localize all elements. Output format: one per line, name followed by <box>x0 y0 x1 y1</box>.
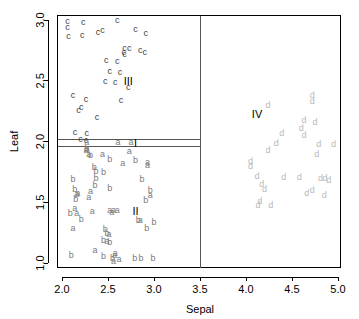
point-d-14: d <box>248 161 253 171</box>
point-a-6: a <box>127 146 132 156</box>
point-b-20: b <box>144 223 149 233</box>
point-c-16: c <box>115 56 120 66</box>
point-b-7: b <box>71 174 76 184</box>
point-b-29: b <box>139 253 144 263</box>
x-axis-title: Sepal <box>186 303 214 315</box>
point-c-17: c <box>122 49 127 59</box>
point-c-23: c <box>71 90 76 100</box>
point-a-27: a <box>93 245 98 255</box>
point-a-21: a <box>109 207 114 217</box>
point-a-24: a <box>71 223 76 233</box>
point-b-1: b <box>88 150 93 160</box>
y-tick-label-1: 1.5 <box>34 195 46 210</box>
x-tick-label-3: 3.5 <box>192 283 207 295</box>
point-b-12: b <box>93 180 98 190</box>
y-tick-label-3: 2.5 <box>34 73 46 88</box>
point-b-16: b <box>68 208 73 218</box>
point-b-6: b <box>101 167 106 177</box>
point-b-24: b <box>107 237 112 247</box>
point-c-11: c <box>127 43 132 53</box>
point-d-10: d <box>331 139 336 149</box>
point-b-18: b <box>136 215 141 225</box>
point-a-30: a <box>117 254 122 264</box>
x-tick-label-0: 2.0 <box>54 283 69 295</box>
plot-frame <box>58 16 341 268</box>
point-a-5: a <box>100 149 105 159</box>
point-b-30: b <box>151 253 156 263</box>
region-label-iv: IV <box>252 108 263 120</box>
point-d-1: d <box>266 100 271 110</box>
point-c-8: c <box>96 27 101 37</box>
point-c-27: c <box>76 105 81 115</box>
point-d-12: d <box>314 149 319 159</box>
point-c-9: c <box>143 28 148 38</box>
point-d-9: d <box>316 139 321 149</box>
point-a-10: a <box>145 160 150 170</box>
point-b-25: b <box>69 250 74 260</box>
point-b-2: b <box>107 154 112 164</box>
point-c-7: c <box>80 30 85 40</box>
point-b-15: b <box>143 195 148 205</box>
axes: 2.02.53.03.54.04.55.01.01.52.02.53.0Sepa… <box>8 12 346 314</box>
point-b-10: b <box>72 184 77 194</box>
point-c-24: c <box>84 94 89 104</box>
point-c-31: c <box>78 134 83 144</box>
point-c-15: c <box>104 55 109 65</box>
x-tick-label-2: 3.0 <box>146 283 161 295</box>
series-c: ccccccccccccccccccccccccccccccccc <box>65 15 148 145</box>
point-d-25: d <box>322 190 327 200</box>
point-c-19: c <box>118 67 123 77</box>
point-a-14: a <box>86 192 91 202</box>
point-c-5: c <box>133 24 138 34</box>
point-c-21: c <box>113 77 118 87</box>
point-a-17: a <box>90 206 95 216</box>
point-d-6: d <box>301 130 306 140</box>
point-c-29: c <box>73 127 78 137</box>
point-d-20: d <box>326 175 331 185</box>
point-d-7: d <box>279 128 284 138</box>
y-axis-title: Leaf <box>8 130 20 152</box>
point-d-11: d <box>266 145 271 155</box>
point-d-16: d <box>281 172 286 182</box>
point-d-2: d <box>310 96 315 106</box>
point-b-14: b <box>73 194 78 204</box>
point-b-26: b <box>101 251 106 261</box>
series-b: bbbbbbbbbbbbbbbbbbbbbbbbbbbbbbb <box>68 144 157 263</box>
y-tick-label-0: 1.0 <box>34 255 46 270</box>
point-d-4: d <box>312 117 317 127</box>
region-label-i: I <box>134 137 137 149</box>
point-d-22: d <box>262 184 267 194</box>
scatter-plot-figure: cccccccccccccccccccccccccccccccccaaaaaaa… <box>0 0 359 319</box>
plot-canvas: cccccccccccccccccccccccccccccccccaaaaaaa… <box>0 0 359 319</box>
point-a-20: a <box>115 205 120 215</box>
data-points: cccccccccccccccccccccccccccccccccaaaaaaa… <box>65 15 336 266</box>
point-c-6: c <box>66 31 71 41</box>
x-tick-label-5: 4.5 <box>284 283 299 295</box>
x-tick-label-6: 5.0 <box>330 283 345 295</box>
point-b-28: b <box>132 253 137 263</box>
point-b-11: b <box>148 185 153 195</box>
point-a-1: a <box>116 137 121 147</box>
point-c-4: c <box>100 25 105 35</box>
point-c-1: c <box>81 17 86 27</box>
point-c-28: c <box>95 112 100 122</box>
point-b-23: b <box>101 235 106 245</box>
point-b-13: b <box>107 183 112 193</box>
point-b-8: b <box>140 174 145 184</box>
y-tick-label-2: 2.0 <box>34 134 46 149</box>
y-tick-label-4: 3.0 <box>34 12 46 27</box>
point-d-24: d <box>304 188 309 198</box>
point-d-8: d <box>274 138 279 148</box>
point-c-3: c <box>115 15 120 25</box>
point-c-20: c <box>103 76 108 86</box>
point-b-3: b <box>133 155 138 165</box>
point-a-2: a <box>128 137 133 147</box>
point-a-8: a <box>120 158 125 168</box>
point-d-17: d <box>297 172 302 182</box>
point-d-28: d <box>268 200 273 210</box>
point-b-17: b <box>79 214 84 224</box>
point-d-23: d <box>310 185 315 195</box>
x-tick-label-1: 2.5 <box>100 283 115 295</box>
point-b-27: b <box>110 253 115 263</box>
point-c-25: c <box>119 95 124 105</box>
